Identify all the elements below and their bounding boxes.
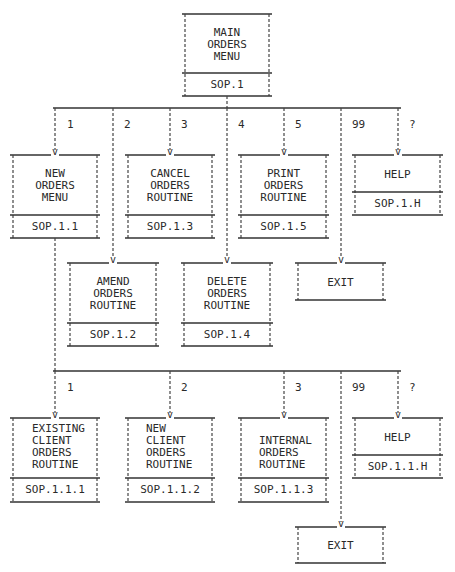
node-code: SOP.1.4 bbox=[185, 329, 269, 341]
node-code: SOP.1.5 bbox=[242, 221, 325, 233]
option-key-2: 2 bbox=[124, 119, 131, 131]
node-title: PRINT ORDERS ROUTINE bbox=[242, 168, 325, 204]
node-title: HELP bbox=[356, 432, 439, 444]
option-key-2: 2 bbox=[181, 382, 188, 394]
node-title: INTERNAL ORDERS ROUTINE bbox=[259, 435, 325, 471]
arrow-down-icon: v bbox=[279, 410, 289, 420]
option-key-99: 99 bbox=[352, 119, 365, 131]
node-title: EXIT bbox=[299, 540, 382, 552]
option-key-5: 5 bbox=[295, 119, 302, 131]
option-key-3: 3 bbox=[181, 119, 188, 131]
arrow-down-icon: v bbox=[50, 147, 60, 157]
node-title: NEW ORDERS MENU bbox=[14, 168, 96, 204]
arrow-down-icon: v bbox=[165, 410, 175, 420]
arrow-down-icon: v bbox=[393, 410, 403, 420]
node-code: SOP.1.1.3 bbox=[242, 484, 325, 496]
option-key-help: ? bbox=[409, 382, 416, 394]
arrow-down-icon: v bbox=[108, 255, 118, 265]
arrow-down-icon: v bbox=[222, 255, 232, 265]
node-title: HELP bbox=[356, 169, 439, 181]
node-code: SOP.1.H bbox=[356, 198, 439, 210]
arrow-down-icon: v bbox=[279, 147, 289, 157]
node-code: SOP.1.1.H bbox=[356, 461, 439, 473]
option-key-3: 3 bbox=[295, 382, 302, 394]
node-code: SOP.1.1.2 bbox=[129, 484, 211, 496]
option-key-1: 1 bbox=[67, 382, 74, 394]
node-title: DELETE ORDERS ROUTINE bbox=[185, 276, 269, 312]
node-code: SOP.1.1 bbox=[14, 221, 96, 233]
node-title: EXISTING CLIENT ORDERS ROUTINE bbox=[32, 423, 98, 471]
node-code: SOP.1.2 bbox=[71, 329, 155, 341]
arrow-down-icon: v bbox=[336, 519, 346, 529]
node-code: SOP.1 bbox=[186, 79, 268, 91]
arrow-down-icon: v bbox=[336, 255, 346, 265]
option-key-4: 4 bbox=[238, 119, 245, 131]
node-title: NEW CLIENT ORDERS ROUTINE bbox=[146, 423, 212, 471]
option-key-help: ? bbox=[409, 119, 416, 131]
node-code: SOP.1.3 bbox=[129, 221, 211, 233]
node-code: SOP.1.1.1 bbox=[14, 484, 96, 496]
node-title: MAIN ORDERS MENU bbox=[186, 27, 268, 63]
arrow-down-icon: v bbox=[393, 147, 403, 157]
option-key-99: 99 bbox=[352, 382, 365, 394]
node-title: CANCEL ORDERS ROUTINE bbox=[129, 168, 211, 204]
arrow-down-icon: v bbox=[165, 147, 175, 157]
arrow-down-icon: v bbox=[50, 410, 60, 420]
node-title: EXIT bbox=[299, 277, 382, 289]
option-key-1: 1 bbox=[67, 119, 74, 131]
node-title: AMEND ORDERS ROUTINE bbox=[71, 276, 155, 312]
